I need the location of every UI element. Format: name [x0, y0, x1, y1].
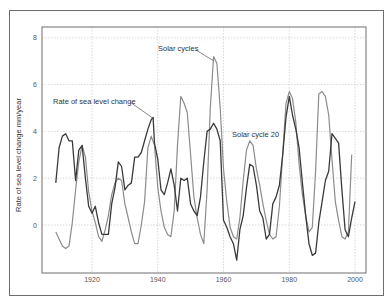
y-tick-label: 8: [33, 34, 37, 41]
x-tick-label: 1960: [216, 276, 232, 283]
x-axis-ticks: 19201940196019802000: [84, 276, 363, 283]
annotation-solar-cycles: Solar cycles: [158, 44, 199, 53]
x-tick-label: 1980: [281, 276, 297, 283]
y-tick-label: 2: [33, 175, 37, 182]
x-tick-label: 1940: [150, 276, 166, 283]
annotations: Solar cycles Rate of sea level change So…: [53, 44, 279, 139]
x-tick-label: 1920: [84, 276, 100, 283]
x-tick-label: 2000: [347, 276, 363, 283]
series-line-solar-cycles: [56, 57, 352, 249]
annotation-solar-cycle-20: Solar cycle 20: [232, 130, 279, 139]
series-group: [56, 57, 355, 261]
y-tick-label: 4: [33, 128, 37, 135]
annotation-leader-solar-cycles: [196, 50, 214, 61]
y-tick-label: 6: [33, 81, 37, 88]
y-tick-label: 0: [33, 222, 37, 229]
annotation-sea-level: Rate of sea level change: [53, 97, 136, 106]
y-axis-ticks: 02468: [33, 34, 37, 228]
chart: 19201940196019802000 02468 Rate of sea l…: [0, 0, 392, 301]
y-axis-label: Rate of sea level change mm/year: [14, 98, 23, 212]
